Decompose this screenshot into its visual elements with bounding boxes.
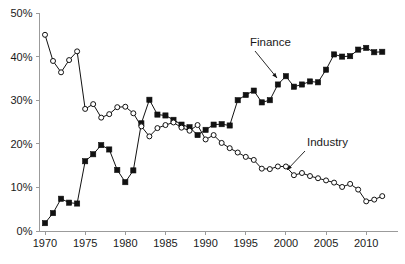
x-tick-label: 1970 bbox=[33, 237, 57, 249]
data-point-marker bbox=[243, 154, 248, 159]
x-tick-label: 1975 bbox=[73, 237, 97, 249]
data-point-marker bbox=[147, 134, 152, 139]
data-point-marker bbox=[356, 187, 361, 192]
data-point-marker bbox=[348, 181, 353, 186]
data-point-marker bbox=[372, 197, 377, 202]
data-point-marker bbox=[155, 112, 160, 117]
data-point-marker bbox=[115, 105, 120, 110]
y-tick-label: 20% bbox=[10, 138, 32, 150]
data-point-marker bbox=[139, 124, 144, 129]
data-point-marker bbox=[43, 32, 48, 37]
x-tick-label: 2010 bbox=[354, 237, 378, 249]
data-point-marker bbox=[163, 113, 168, 118]
data-point-marker bbox=[259, 166, 264, 171]
data-point-marker bbox=[356, 47, 361, 52]
data-point-marker bbox=[203, 127, 208, 132]
data-point-marker bbox=[203, 137, 208, 142]
data-point-marker bbox=[227, 146, 232, 151]
x-axis: 197019751980198519901995200020052010 bbox=[33, 231, 398, 249]
data-point-marker bbox=[131, 168, 136, 173]
data-point-marker bbox=[91, 102, 96, 107]
data-point-marker bbox=[187, 128, 192, 133]
data-point-marker bbox=[179, 125, 184, 130]
data-point-marker bbox=[163, 123, 168, 128]
data-point-marker bbox=[340, 54, 345, 59]
data-point-marker bbox=[67, 58, 72, 63]
data-point-marker bbox=[195, 123, 200, 128]
annotation-leader-line bbox=[255, 51, 277, 78]
annotation-industry: Industry bbox=[287, 136, 348, 170]
data-point-marker bbox=[299, 82, 304, 87]
data-point-marker bbox=[107, 112, 112, 117]
data-point-marker bbox=[211, 122, 216, 127]
x-tick-label: 1980 bbox=[113, 237, 137, 249]
data-point-marker bbox=[155, 126, 160, 131]
data-point-marker bbox=[331, 52, 336, 57]
x-tick-label: 1990 bbox=[193, 237, 217, 249]
data-point-marker bbox=[219, 122, 224, 127]
data-point-marker bbox=[75, 49, 80, 54]
data-point-marker bbox=[91, 152, 96, 157]
y-tick-label: 50% bbox=[10, 7, 32, 19]
data-point-marker bbox=[99, 143, 104, 148]
annotation-label: Finance bbox=[250, 36, 291, 48]
data-point-marker bbox=[147, 97, 152, 102]
data-point-marker bbox=[83, 106, 88, 111]
annotation-label: Industry bbox=[307, 136, 348, 148]
x-tick-label: 1985 bbox=[153, 237, 177, 249]
data-point-marker bbox=[107, 147, 112, 152]
data-point-marker bbox=[348, 54, 353, 59]
data-point-marker bbox=[227, 123, 232, 128]
data-point-marker bbox=[380, 194, 385, 199]
y-tick-label: 30% bbox=[10, 94, 32, 106]
data-point-marker bbox=[364, 45, 369, 50]
data-point-marker bbox=[259, 100, 264, 105]
data-point-marker bbox=[267, 167, 272, 172]
data-point-marker bbox=[115, 167, 120, 172]
line-chart: 0%10%20%30%40%50% 1970197519801985199019… bbox=[0, 0, 405, 264]
data-point-marker bbox=[51, 58, 56, 63]
data-point-marker bbox=[324, 178, 329, 183]
data-point-marker bbox=[299, 171, 304, 176]
data-point-marker bbox=[251, 88, 256, 93]
series-layer bbox=[42, 32, 384, 225]
data-point-marker bbox=[75, 201, 80, 206]
x-tick-label: 1995 bbox=[234, 237, 258, 249]
data-point-marker bbox=[267, 98, 272, 103]
x-tick-label: 2000 bbox=[274, 237, 298, 249]
data-point-marker bbox=[59, 70, 64, 75]
chart-container: 0%10%20%30%40%50% 1970197519801985199019… bbox=[0, 0, 405, 264]
series-industry bbox=[43, 32, 385, 204]
y-axis: 0%10%20%30%40%50% bbox=[10, 7, 39, 237]
data-point-marker bbox=[211, 133, 216, 138]
data-point-marker bbox=[307, 79, 312, 84]
data-point-marker bbox=[315, 80, 320, 85]
y-tick-label: 0% bbox=[17, 225, 33, 237]
data-point-marker bbox=[251, 157, 256, 162]
data-point-marker bbox=[131, 111, 136, 116]
x-tick-label: 2005 bbox=[314, 237, 338, 249]
annotation-finance: Finance bbox=[250, 36, 291, 78]
data-point-marker bbox=[340, 184, 345, 189]
data-point-marker bbox=[42, 221, 47, 226]
data-point-marker bbox=[235, 98, 240, 103]
data-point-marker bbox=[123, 180, 128, 185]
data-point-marker bbox=[283, 164, 288, 169]
data-point-marker bbox=[275, 164, 280, 169]
data-point-marker bbox=[316, 176, 321, 181]
data-point-marker bbox=[171, 120, 176, 125]
data-point-marker bbox=[323, 67, 328, 72]
data-point-marker bbox=[195, 132, 200, 137]
data-point-marker bbox=[243, 92, 248, 97]
data-point-marker bbox=[235, 150, 240, 155]
data-point-marker bbox=[380, 49, 385, 54]
data-point-marker bbox=[372, 50, 377, 55]
data-point-marker bbox=[66, 200, 71, 205]
data-point-marker bbox=[283, 74, 288, 79]
data-point-marker bbox=[291, 173, 296, 178]
data-point-marker bbox=[83, 159, 88, 164]
data-point-marker bbox=[332, 180, 337, 185]
y-tick-label: 40% bbox=[10, 51, 32, 63]
data-point-marker bbox=[99, 115, 104, 120]
data-point-marker bbox=[50, 211, 55, 216]
